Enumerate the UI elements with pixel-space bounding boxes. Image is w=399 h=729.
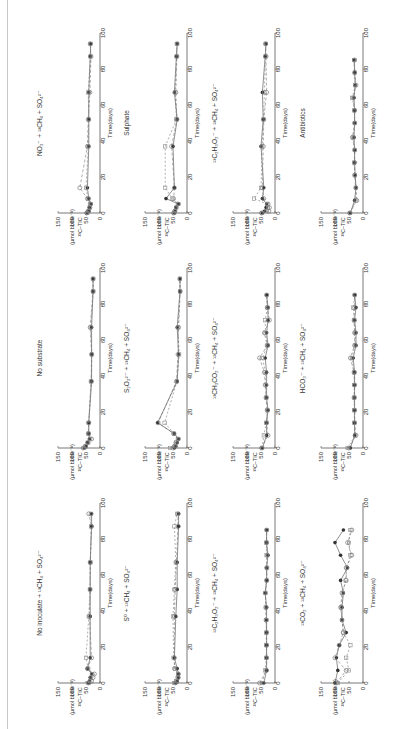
- time-tick-label: 80: [275, 300, 281, 307]
- data-point: [342, 528, 346, 532]
- time-tick-label: 80: [363, 65, 369, 72]
- y-axis-label: ¹³C–TIC: [164, 217, 170, 237]
- y-axis-label: ¹³C–TIC: [77, 687, 83, 707]
- y-axis-label: (µmol bottle⁻¹): [69, 209, 75, 245]
- value-tick-label: 0: [360, 686, 366, 690]
- value-tick-label: 0: [184, 451, 190, 455]
- time-tick-label: 0: [363, 446, 369, 450]
- x-axis-label: Time(days): [194, 343, 200, 373]
- y-axis-label: (µmol bottle⁻¹): [69, 444, 75, 480]
- series-line: [158, 279, 180, 448]
- time-tick-label: 80: [275, 65, 281, 72]
- time-tick-label: 100: [100, 497, 106, 508]
- value-tick-label: 50: [170, 216, 176, 223]
- panel-title: HCO₃⁻ + ¹³CH₄ + SO₄²⁻: [299, 323, 306, 394]
- time-tick-label: 20: [275, 408, 281, 415]
- y-axis-label: ¹³C–TIC: [164, 452, 170, 472]
- y-axis-label: (µmol bottle⁻¹): [244, 209, 250, 245]
- time-tick-label: 100: [100, 262, 106, 273]
- panel-12: 020406080100050100150Time(days)(µmol bot…: [299, 497, 376, 714]
- time-tick-label: 100: [187, 262, 193, 273]
- value-tick-label: 0: [272, 451, 278, 455]
- time-tick-label: 80: [363, 300, 369, 307]
- time-tick-label: 60: [187, 336, 193, 343]
- value-tick-label: 50: [258, 216, 264, 223]
- time-tick-label: 0: [187, 211, 193, 215]
- time-tick-label: 0: [100, 211, 106, 215]
- panel-2: 020406080100050100150Time(days)(µmol bot…: [123, 27, 200, 244]
- time-tick-label: 60: [363, 571, 369, 578]
- value-tick-label: 0: [97, 216, 103, 220]
- value-tick-label: 0: [184, 216, 190, 220]
- time-tick-label: 80: [275, 535, 281, 542]
- time-tick-label: 0: [275, 446, 281, 450]
- panel-4: 020406080100050100150Time(days)(µmol bot…: [299, 27, 376, 244]
- time-tick-label: 60: [275, 571, 281, 578]
- value-tick-label: 150: [142, 216, 148, 227]
- time-tick-label: 0: [363, 211, 369, 215]
- value-tick-label: 0: [272, 216, 278, 220]
- value-tick-label: 50: [170, 686, 176, 693]
- time-tick-label: 20: [100, 173, 106, 180]
- panel-6: 020406080100050100150Time(days)(µmol bot…: [123, 262, 200, 479]
- time-tick-label: 20: [100, 408, 106, 415]
- value-tick-label: 50: [258, 451, 264, 458]
- x-axis-label: Time(days): [107, 578, 113, 608]
- time-tick-label: 60: [363, 336, 369, 343]
- y-axis-label: ¹³C–TIC: [164, 687, 170, 707]
- time-tick-label: 80: [100, 300, 106, 307]
- value-tick-label: 150: [55, 686, 61, 697]
- time-tick-label: 80: [187, 300, 193, 307]
- y-axis-label: (µmol bottle⁻¹): [244, 444, 250, 480]
- series-line: [165, 279, 180, 448]
- time-tick-label: 80: [100, 535, 106, 542]
- panel-3: 020406080100050100150Time(days)(µmol bot…: [211, 27, 288, 244]
- time-tick-label: 20: [187, 643, 193, 650]
- time-tick-label: 60: [275, 101, 281, 108]
- panel-8: 020406080100050100150Time(days)(µmol bot…: [299, 262, 376, 479]
- time-tick-label: 40: [275, 372, 281, 379]
- value-tick-label: 150: [142, 686, 148, 697]
- time-tick-label: 20: [363, 173, 369, 180]
- y-axis-label: ¹³C–TIC: [252, 452, 258, 472]
- panel-title: NO₃⁻ + ¹³CH₄ + SO₄²⁻: [36, 90, 43, 156]
- y-axis-label: (µmol bottle⁻¹): [332, 209, 338, 245]
- value-tick-label: 50: [83, 216, 89, 223]
- time-tick-label: 100: [275, 497, 281, 508]
- value-tick-label: 150: [230, 451, 236, 462]
- time-tick-label: 20: [363, 408, 369, 415]
- data-point: [349, 644, 352, 647]
- time-tick-label: 40: [363, 372, 369, 379]
- time-tick-label: 0: [187, 446, 193, 450]
- series-line: [254, 44, 268, 213]
- time-tick-label: 100: [275, 262, 281, 273]
- time-tick-label: 0: [100, 681, 106, 685]
- y-axis-label: (µmol bottle⁻¹): [156, 209, 162, 245]
- time-tick-label: 80: [187, 535, 193, 542]
- time-tick-label: 0: [187, 681, 193, 685]
- value-tick-label: 0: [360, 216, 366, 220]
- time-tick-label: 20: [100, 643, 106, 650]
- y-axis-label: ¹³C–TIC: [77, 217, 83, 237]
- time-tick-label: 100: [363, 262, 369, 273]
- y-axis-label: ¹³C–TIC: [77, 452, 83, 472]
- time-tick-label: 100: [100, 27, 106, 38]
- value-tick-label: 50: [346, 451, 352, 458]
- panel-title: S⁰ + ¹³CH₄ + SO₄²⁻: [123, 565, 130, 622]
- x-axis-label: Time(days): [370, 343, 376, 373]
- time-tick-label: 20: [363, 643, 369, 650]
- time-tick-label: 60: [100, 336, 106, 343]
- time-tick-label: 40: [187, 607, 193, 614]
- time-tick-label: 60: [100, 101, 106, 108]
- x-axis-label: Time(days): [282, 108, 288, 138]
- value-tick-label: 150: [230, 686, 236, 697]
- panel-title: Sulphate: [123, 110, 131, 136]
- time-tick-label: 100: [363, 27, 369, 38]
- y-axis-label: (µmol bottle⁻¹): [244, 679, 250, 715]
- panel-title: Antibiotics: [299, 107, 306, 137]
- value-tick-label: 150: [230, 216, 236, 227]
- panel-11: 020406080100050100150Time(days)(µmol bot…: [211, 497, 288, 714]
- time-tick-label: 100: [363, 497, 369, 508]
- y-axis-label: (µmol bottle⁻¹): [156, 444, 162, 480]
- time-tick-label: 20: [187, 173, 193, 180]
